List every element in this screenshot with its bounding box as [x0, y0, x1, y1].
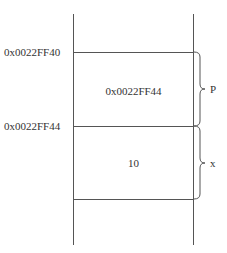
variable-label-x: x — [210, 157, 216, 169]
memory-left-border — [73, 14, 74, 245]
variable-label-p: P — [210, 83, 216, 95]
brace-p-icon — [194, 52, 205, 126]
cell-boundary-1 — [73, 52, 194, 53]
cell-value-p: 0x0022FF44 — [74, 85, 193, 97]
address-label-2: 0x0022FF44 — [4, 120, 60, 132]
address-label-1: 0x0022FF40 — [4, 46, 60, 58]
brace-icons — [193, 0, 227, 253]
brace-x-icon — [194, 126, 205, 199]
cell-boundary-3 — [73, 199, 194, 200]
cell-boundary-2 — [73, 126, 194, 127]
cell-value-x: 10 — [74, 157, 193, 169]
